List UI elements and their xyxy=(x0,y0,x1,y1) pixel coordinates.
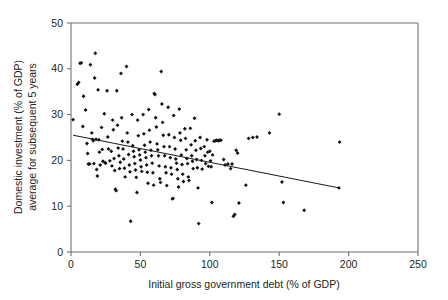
data-point xyxy=(116,123,120,127)
data-point xyxy=(199,147,203,151)
data-point xyxy=(81,125,85,129)
x-tick-label: 150 xyxy=(270,258,288,270)
data-point xyxy=(119,71,123,75)
data-point xyxy=(177,107,181,111)
data-point xyxy=(93,51,97,55)
x-axis-title: Initial gross government debt (% of GDP) xyxy=(148,278,339,290)
scatter-chart: 050100150200250 01020304050 Initial gros… xyxy=(0,0,448,300)
data-point xyxy=(168,156,172,160)
data-point xyxy=(229,167,233,171)
data-point xyxy=(166,105,170,109)
data-point xyxy=(152,183,156,187)
data-point xyxy=(200,167,204,171)
data-point xyxy=(85,142,89,146)
data-point xyxy=(230,162,234,166)
data-point xyxy=(113,169,117,173)
data-point xyxy=(186,175,190,179)
data-point xyxy=(88,63,92,67)
data-point xyxy=(176,177,180,181)
data-point xyxy=(139,165,143,169)
data-point xyxy=(172,136,176,140)
data-point xyxy=(155,142,159,146)
data-point xyxy=(125,65,129,69)
data-point xyxy=(178,131,182,135)
data-point xyxy=(127,163,131,167)
x-tick-label: 100 xyxy=(201,258,219,270)
data-point xyxy=(197,222,201,226)
data-point xyxy=(136,118,140,122)
data-point xyxy=(150,161,154,165)
y-tick-label: 30 xyxy=(51,108,63,120)
data-point xyxy=(122,166,126,170)
data-point xyxy=(108,159,112,163)
data-point xyxy=(244,183,248,187)
data-point xyxy=(188,126,192,130)
data-point xyxy=(143,150,147,154)
data-point xyxy=(126,140,130,144)
data-point xyxy=(154,125,158,129)
data-point xyxy=(141,113,145,117)
data-point xyxy=(158,177,162,181)
data-point xyxy=(172,114,176,118)
plot-frame xyxy=(71,23,418,252)
data-point xyxy=(196,186,200,190)
data-point xyxy=(121,147,125,151)
data-point xyxy=(191,159,195,163)
data-point xyxy=(202,145,206,149)
data-point xyxy=(143,143,147,147)
data-point xyxy=(193,139,197,143)
data-point xyxy=(132,149,136,153)
data-point xyxy=(194,148,198,152)
data-point xyxy=(198,136,202,140)
data-point xyxy=(95,168,99,172)
y-tick-label: 50 xyxy=(51,17,63,29)
y-tick-label: 40 xyxy=(51,62,63,74)
data-point xyxy=(135,191,139,195)
data-point xyxy=(183,127,187,131)
x-tick-label: 0 xyxy=(68,258,74,270)
data-point xyxy=(71,118,75,122)
data-point xyxy=(157,164,161,168)
data-point xyxy=(86,152,90,156)
data-point xyxy=(167,133,171,137)
data-point xyxy=(187,179,191,183)
data-point xyxy=(173,147,177,151)
data-point xyxy=(120,139,124,143)
data-point xyxy=(118,167,122,171)
data-point xyxy=(90,131,94,135)
data-point xyxy=(247,136,251,140)
data-point xyxy=(168,145,172,149)
data-point xyxy=(110,164,114,168)
data-point xyxy=(165,184,169,188)
data-point xyxy=(163,154,167,158)
data-point xyxy=(189,143,193,147)
data-point xyxy=(111,118,115,122)
data-point xyxy=(179,138,183,142)
data-point xyxy=(132,155,136,159)
data-point xyxy=(169,166,173,170)
data-point xyxy=(222,158,226,162)
data-point xyxy=(136,134,140,138)
data-point xyxy=(186,162,190,166)
data-point xyxy=(211,153,215,157)
y-axis-title-line2: average for subsequent 5 years xyxy=(26,63,38,211)
data-point xyxy=(116,146,120,150)
data-point xyxy=(191,167,195,171)
data-point xyxy=(177,185,181,189)
data-point xyxy=(140,169,144,173)
data-point xyxy=(184,136,188,140)
data-point xyxy=(115,89,119,93)
data-point xyxy=(160,102,164,106)
data-point xyxy=(120,116,124,120)
data-point xyxy=(82,94,86,98)
data-point xyxy=(117,154,121,158)
data-point xyxy=(102,112,106,116)
data-point xyxy=(100,125,104,129)
data-point xyxy=(147,108,151,112)
data-point xyxy=(210,201,214,205)
data-point xyxy=(163,165,167,169)
data-point xyxy=(268,131,272,135)
data-point xyxy=(148,140,152,144)
data-point xyxy=(138,153,142,157)
data-point xyxy=(95,174,99,178)
